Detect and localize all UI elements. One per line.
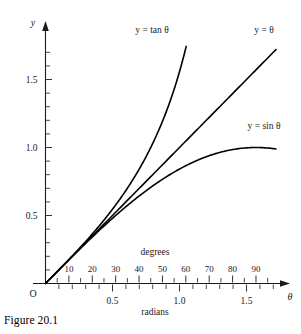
x-axis-name-label: θ (288, 291, 293, 302)
theta-line-label: y = θ (254, 25, 274, 35)
radian-tick-label: 0.5 (107, 296, 119, 306)
degree-tick-label: 10 (64, 264, 74, 274)
degree-tick-label: 90 (251, 264, 261, 274)
y-tick-label: 1.5 (26, 75, 38, 85)
radian-axis-ticks (59, 285, 273, 292)
y-axis-name-label: y (30, 17, 36, 28)
radian-tick-label: 1.5 (241, 296, 253, 306)
radian-tick-label: 1.0 (174, 296, 186, 306)
degree-tick-label: 70 (205, 264, 215, 274)
degree-axis-ticks (57, 276, 267, 283)
degree-tick-label: 80 (228, 264, 238, 274)
y-tick-label: 1.0 (26, 143, 38, 153)
degree-tick-label: 40 (135, 264, 145, 274)
degree-tick-label: 50 (158, 264, 168, 274)
radian-axis-tick-labels: 0.51.01.5 (107, 296, 253, 306)
y-tick-label: 0.5 (26, 211, 38, 221)
trigonometric-comparison-plot: 0.51.01.5 102030405060708090 0.51.01.5 y… (0, 0, 301, 334)
figure-container: 0.51.01.5 102030405060708090 0.51.01.5 y… (0, 0, 301, 334)
tan-curve-label: y = tan θ (135, 25, 169, 35)
origin-label: O (29, 288, 36, 299)
x-axis-arrowhead (280, 280, 290, 287)
sin-curve-label: y = sin θ (248, 121, 281, 131)
degree-tick-label: 60 (181, 264, 191, 274)
figure-caption: Figure 20.1 (4, 314, 58, 326)
degree-tick-label: 30 (111, 264, 121, 274)
y-axis-tick-labels: 0.51.01.5 (26, 75, 38, 221)
y-axis-arrowhead (42, 21, 49, 31)
y-axis-ticks (46, 52, 53, 270)
degree-tick-label: 20 (88, 264, 98, 274)
degrees-unit-label: degrees (140, 247, 169, 257)
degree-axis-tick-labels: 102030405060708090 (64, 264, 261, 274)
radians-unit-label: radians (141, 307, 169, 317)
